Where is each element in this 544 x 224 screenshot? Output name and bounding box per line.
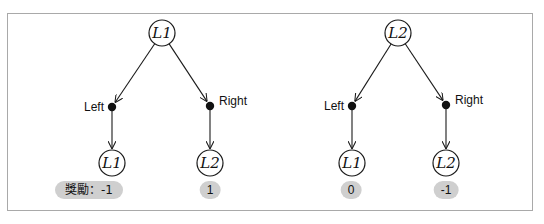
root-node: L2 (385, 20, 411, 46)
root-node: L1 (149, 20, 175, 46)
reward-badge: -1 (434, 181, 459, 199)
edge-arrow (355, 44, 391, 102)
action-label-right: Right (219, 94, 248, 108)
action-dot (206, 102, 214, 110)
edge-arrow (115, 44, 155, 103)
action-label-right: Right (455, 93, 484, 107)
node-label: L2 (199, 154, 220, 172)
edge-arrow (405, 44, 443, 101)
action-dot (348, 102, 356, 110)
leaf-node: L2 (433, 150, 459, 176)
action-label-left: Left (324, 99, 345, 113)
leaf-node: L1 (339, 150, 365, 176)
node-label: L2 (435, 154, 456, 172)
node-label: L1 (151, 24, 172, 42)
action-dot (108, 103, 116, 111)
leaf-node: L1 (99, 150, 125, 176)
node-label: L2 (387, 24, 408, 42)
reward-badge: 0 (341, 181, 362, 199)
action-dot (442, 101, 450, 109)
action-label-left: Left (84, 100, 105, 114)
node-label: L1 (101, 154, 122, 172)
node-label: L1 (341, 154, 362, 172)
leaf-node: L2 (197, 150, 223, 176)
reward-badge: 1 (200, 181, 221, 199)
edge-arrow (169, 44, 207, 102)
reward-badge: 獎勵：-1 (55, 181, 123, 199)
